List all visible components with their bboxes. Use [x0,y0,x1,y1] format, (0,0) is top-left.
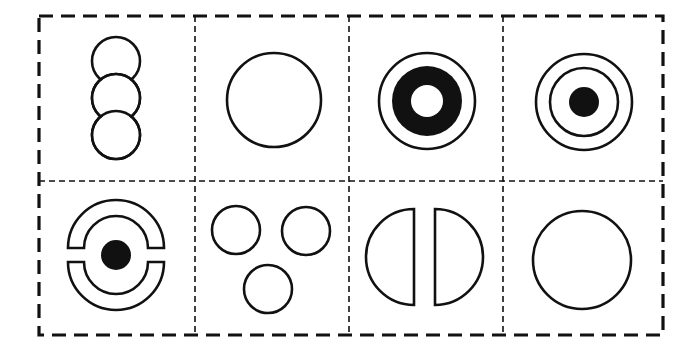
puzzle-figure [0,0,695,356]
cell-r1c2-large-circle-icon [227,53,321,147]
cell-r1c4-concentric-dot-icon [536,54,632,150]
cell-r2c2-three-circles-icon [212,206,330,313]
cell-r2c3-split-halves-icon [366,209,483,305]
outer-border [39,16,663,335]
cell-r1c3-target-ring-icon [379,53,475,149]
cell-r2c4-circle-icon [533,211,631,309]
cell-r1c1-three-circles-icon [92,37,140,159]
cell-r2c1-split-arcs-icon [68,200,164,310]
grid-dividers [39,16,663,335]
